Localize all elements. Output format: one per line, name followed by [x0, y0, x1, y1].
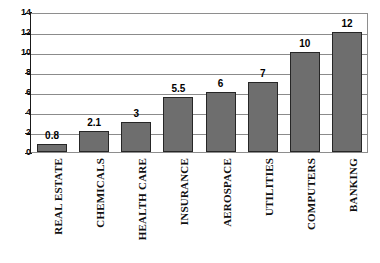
bar-value-label: 12: [341, 19, 352, 29]
x-label-slot: BANKING: [326, 156, 368, 261]
bar-slot: 6: [200, 14, 242, 152]
bar[interactable]: [121, 122, 151, 152]
x-label-slot: UTILITIES: [242, 156, 284, 261]
bar-slot: 3: [115, 14, 157, 152]
bar[interactable]: [79, 131, 109, 152]
x-label-slot: COMPUTERS: [284, 156, 326, 261]
bar-slot: 5.5: [157, 14, 199, 152]
bar[interactable]: [332, 32, 362, 152]
x-axis-category-label: BANKING: [347, 158, 359, 212]
bar-value-label: 7: [260, 69, 266, 79]
plot-area: 0.82.135.5671012: [31, 13, 368, 153]
bar-slot: 2.1: [73, 14, 115, 152]
x-axis-category-label: CHEMICALS: [94, 158, 106, 228]
x-label-slot: REAL ESTATE: [31, 156, 73, 261]
bar[interactable]: [163, 97, 193, 152]
bar[interactable]: [206, 92, 236, 152]
bar[interactable]: [290, 52, 320, 152]
x-label-slot: INSURANCE: [157, 156, 199, 261]
x-label-slot: CHEMICALS: [73, 156, 115, 261]
bar-slot: 7: [242, 14, 284, 152]
bar[interactable]: [248, 82, 278, 152]
bar-value-label: 6: [218, 79, 224, 89]
x-axis-category-label: HEALTH CARE: [136, 158, 148, 240]
x-axis-category-label: AEROSPACE: [221, 158, 233, 227]
x-axis-category-label: UTILITIES: [263, 158, 275, 216]
bar-slot: 10: [284, 14, 326, 152]
bar-value-label: 3: [134, 109, 140, 119]
bar-value-label: 0.8: [45, 131, 59, 141]
x-axis-category-label: INSURANCE: [178, 158, 190, 225]
bar-slot: 12: [326, 14, 368, 152]
bar[interactable]: [37, 144, 67, 152]
bar-chart-screenshot: 02468101214 0.82.135.5671012 REAL ESTATE…: [0, 0, 380, 263]
x-axis-labels: REAL ESTATECHEMICALSHEALTH CAREINSURANCE…: [31, 156, 368, 261]
x-label-slot: AEROSPACE: [200, 156, 242, 261]
y-axis: 02468101214: [0, 0, 31, 263]
x-axis-category-label: REAL ESTATE: [52, 158, 64, 235]
bar-value-label: 5.5: [171, 84, 185, 94]
x-label-slot: HEALTH CARE: [115, 156, 157, 261]
x-axis-category-label: COMPUTERS: [305, 158, 317, 230]
bar-value-label: 2.1: [87, 118, 101, 128]
bar-slot: 0.8: [31, 14, 73, 152]
bar-value-label: 10: [299, 39, 310, 49]
